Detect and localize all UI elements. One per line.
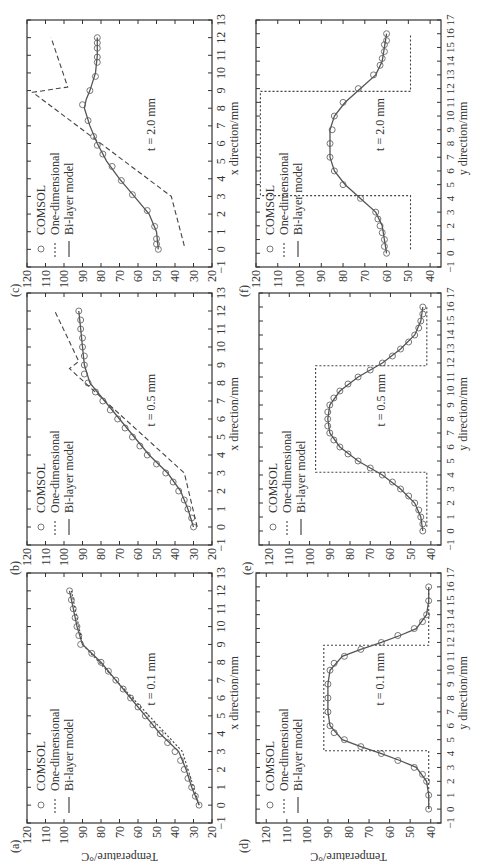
x-tick-label: 2 <box>444 779 456 785</box>
legend: COMSOLOne-dimensionalBi-layer model <box>34 430 76 535</box>
x-tick-label: −1 <box>444 539 456 551</box>
legend-comsol-icon <box>270 524 276 530</box>
x-tick-label: −1 <box>444 817 456 829</box>
thickness-annotation: t = 2.0 mm <box>144 97 158 150</box>
thickness-annotation: t = 0.1 mm <box>373 652 387 705</box>
y-tick-label: 20 <box>205 548 219 560</box>
y-tick-label: 30 <box>187 548 201 560</box>
x-tick-label: 2 <box>214 766 228 772</box>
legend-label: Bi-layer model <box>62 718 76 791</box>
y-tick-label: 50 <box>403 826 417 838</box>
comsol-marker <box>420 521 426 527</box>
y-tick-label: 70 <box>113 270 127 282</box>
bilayer-line <box>79 311 194 527</box>
legend: COMSOLOne-dimensionalBi-layer model <box>34 152 76 257</box>
legend: COMSOLOne-dimensionalBi-layer model <box>263 708 305 813</box>
y-tick-label: 60 <box>380 270 394 282</box>
y-tick-label: 110 <box>280 826 294 844</box>
legend-label: COMSOL <box>263 185 277 235</box>
y-tick-label: 40 <box>168 270 182 282</box>
x-tick-label: 1 <box>214 784 228 790</box>
y-tick-label: 80 <box>94 548 108 560</box>
x-tick-label: 9 <box>444 127 456 133</box>
x-tick-label: 0 <box>444 528 456 534</box>
y-tick-label: 40 <box>168 548 182 560</box>
legend-label: COMSOL <box>34 185 48 235</box>
x-tick-label: 6 <box>214 416 228 422</box>
legend: COMSOLOne-dimensionalBi-layer model <box>263 152 305 257</box>
legend-comsol-icon <box>38 802 44 808</box>
x-tick-label: 4 <box>444 750 456 756</box>
x-tick-label: 0 <box>214 802 228 808</box>
x-tick-label: 11 <box>444 651 456 662</box>
comsol-marker <box>196 802 202 808</box>
x-tick-label: 7 <box>444 430 456 436</box>
y-tick-label: 90 <box>76 826 90 838</box>
y-tick-label: 100 <box>300 826 314 844</box>
legend-comsol-icon <box>267 246 273 252</box>
y-tick-label: 50 <box>150 270 164 282</box>
x-tick-label: 11 <box>444 97 456 108</box>
legend: COMSOLOne-dimensionalBi-layer model <box>266 430 308 535</box>
x-tick-label: 1 <box>444 514 456 520</box>
x-tick-label: 10 <box>214 621 228 633</box>
x-tick-label: 13 <box>444 623 456 635</box>
x-tick-label: 2 <box>444 500 456 506</box>
panel-a: −101234567891011121320304050607080901001… <box>8 567 241 864</box>
x-tick-label: 1 <box>214 229 228 235</box>
y-tick-label: 60 <box>131 826 145 838</box>
y-tick-label: 60 <box>131 270 145 282</box>
y-tick-label: 60 <box>383 548 397 560</box>
x-tick-label: 6 <box>444 444 456 450</box>
x-tick-label: 11 <box>214 603 228 615</box>
x-tick-label: 9 <box>214 88 228 94</box>
legend-label: One-dimensional <box>277 152 291 235</box>
x-tick-label: 1 <box>214 506 228 512</box>
x-tick-label: 2 <box>214 488 228 494</box>
x-tick-label: 6 <box>444 723 456 729</box>
y-tick-label: 50 <box>150 826 164 838</box>
x-tick-label: 0 <box>444 806 456 812</box>
y-tick-label: 40 <box>424 548 438 560</box>
y-tick-label: 100 <box>57 270 71 288</box>
y-tick-label: 90 <box>76 548 90 560</box>
legend-label: COMSOL <box>34 741 48 791</box>
x-tick-label: 0 <box>444 250 456 256</box>
x-tick-label: 6 <box>214 695 228 701</box>
y-tick-label: 120 <box>262 548 276 566</box>
x-tick-label: 4 <box>444 472 456 478</box>
y-tick-label: 90 <box>76 270 90 282</box>
panel-label: (c) <box>8 284 22 297</box>
y-tick-label: 120 <box>259 826 273 844</box>
panel-d: −101234567891011121314151617405060708090… <box>237 567 470 864</box>
y-tick-label: 50 <box>150 548 164 560</box>
thickness-annotation: t = 2.0 mm <box>373 97 387 150</box>
x-tick-label: 10 <box>444 664 456 676</box>
panel-label: (b) <box>8 561 22 575</box>
y-tick-label: 80 <box>343 548 357 560</box>
y-tick-label: 100 <box>303 548 317 566</box>
y-tick-label: 70 <box>363 548 377 560</box>
x-tick-label: 17 <box>444 287 456 299</box>
y-tick-label: 90 <box>314 270 328 282</box>
x-tick-label: 5 <box>444 458 456 464</box>
comsol-marker <box>325 409 331 415</box>
y-tick-label: 110 <box>282 548 296 566</box>
x-tick-label: 9 <box>214 362 228 368</box>
thickness-annotation: t = 0.1 mm <box>144 652 158 705</box>
y-tick-label: 120 <box>20 826 34 844</box>
panel-c: −101234567891011121320304050607080901001… <box>8 14 241 297</box>
comsol-marker <box>381 243 387 249</box>
y-tick-label: 80 <box>94 270 108 282</box>
x-tick-label: 15 <box>444 595 456 607</box>
x-tick-label: 10 <box>444 385 456 397</box>
panel-label: (f) <box>237 285 251 297</box>
x-tick-label: 0 <box>214 246 228 252</box>
y-tick-label: 20 <box>205 826 219 838</box>
bilayer-line <box>70 591 200 805</box>
y-tick-label: 110 <box>271 270 285 288</box>
legend-label: COMSOL <box>34 463 48 513</box>
y-tick-label: 70 <box>358 270 372 282</box>
legend-label: One-dimensional <box>48 152 62 235</box>
legend-label: Bi-layer model <box>62 440 76 513</box>
